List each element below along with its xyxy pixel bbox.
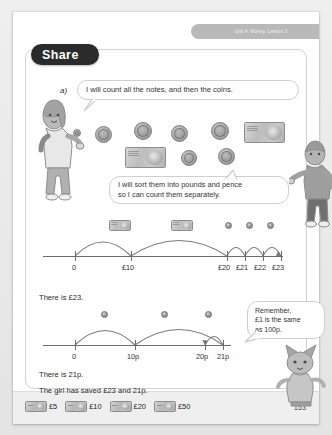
conclusion-sentence: The girl has saved £23 and 21p. <box>39 386 148 395</box>
tick-pence-21 <box>223 340 224 350</box>
banknote-icon-50 <box>154 401 176 412</box>
jump-icon-note-2 <box>171 220 193 231</box>
tick-label-pounds-22: £22 <box>254 263 266 272</box>
tick-pounds-22 <box>263 251 264 261</box>
banknote-icon-20 <box>110 401 132 412</box>
speech-bubble-2-text: I will sort them into pounds and pence s… <box>118 180 242 200</box>
tick-pounds-0 <box>75 251 76 261</box>
coin-6 <box>218 148 235 165</box>
money-key-label-5: £5 <box>49 402 57 411</box>
money-key-label-20: £20 <box>134 402 146 411</box>
number-line-pounds: 0 £10 £20 £21 £22 £23 <box>13 217 319 287</box>
jump-icon-coin-3 <box>267 222 274 229</box>
speech-bubble-3-line3: as 100p. <box>255 326 282 333</box>
share-section-title: Share <box>31 44 99 65</box>
running-head: Unit 4: Money, Lesson 3 <box>191 24 319 39</box>
speech-bubble-count-notes: I will count all the notes, and then the… <box>77 80 299 100</box>
tick-label-pounds-0: 0 <box>72 263 76 272</box>
jump-icon-coin-2 <box>246 222 253 229</box>
tick-pence-10 <box>135 340 136 350</box>
tick-pounds-10 <box>131 251 132 261</box>
jump-arcs-pence-icon <box>73 320 223 346</box>
coin-2 <box>134 122 152 140</box>
money-key-strip: £5 £10 £20 £50 <box>25 401 190 412</box>
boy-character-icon <box>289 140 332 230</box>
tick-label-pounds-20: £20 <box>218 263 230 272</box>
jump-arcs-pounds-icon <box>73 231 283 257</box>
tick-pence-0 <box>75 340 76 350</box>
tick-pounds-21 <box>245 251 246 261</box>
tick-label-pence-20: 20p <box>196 352 208 361</box>
jump-icon-pence-coin-2 <box>161 311 168 318</box>
money-key-item-20: £20 <box>110 401 146 412</box>
screenshot-root: Unit 4: Money, Lesson 3 Share a) <box>0 0 332 435</box>
result-sentence-pounds: There is £23. <box>39 293 83 302</box>
speech-bubble-3-tail-icon <box>245 330 259 344</box>
speech-bubble-2-tail-icon <box>223 170 239 180</box>
textbook-page: Unit 4: Money, Lesson 3 Share a) <box>13 12 319 424</box>
part-label-a: a) <box>60 86 67 95</box>
banknote-1 <box>244 122 285 143</box>
money-key-item-10: £10 <box>65 401 101 412</box>
speech-bubble-2-line2: so I can count them separately. <box>118 190 220 199</box>
tick-pounds-23 <box>281 251 282 261</box>
banknote-2 <box>125 147 166 168</box>
speech-bubble-3-text: Remember, £1 is the same as 100p. <box>255 306 301 334</box>
cat-character-icon <box>271 342 332 408</box>
jump-icon-note-1 <box>109 220 131 231</box>
tick-label-pence-10: 10p <box>127 352 139 361</box>
money-key-item-5: £5 <box>25 401 57 412</box>
speech-bubble-1-tail-icon <box>83 98 97 112</box>
tick-label-pence-0: 0 <box>72 352 76 361</box>
tick-label-pounds-21: £21 <box>236 263 248 272</box>
tick-pence-20 <box>205 340 206 350</box>
jump-icon-pence-coin-3 <box>205 311 212 318</box>
money-key-label-10: £10 <box>89 402 101 411</box>
axis-line-pounds <box>43 256 283 257</box>
coin-1 <box>95 126 112 143</box>
banknote-icon-5 <box>25 401 47 412</box>
speech-bubble-3-line2: £1 is the same <box>255 316 301 323</box>
tick-label-pence-21: 21p <box>217 352 229 361</box>
tick-pounds-20 <box>227 251 228 261</box>
coin-5 <box>181 150 197 166</box>
jump-icon-coin-1 <box>225 222 232 229</box>
money-key-item-50: £50 <box>154 401 190 412</box>
result-sentence-pence: There is 21p. <box>39 370 83 379</box>
speech-bubble-1-text: I will count all the notes, and then the… <box>86 85 233 95</box>
tick-label-pounds-10: £10 <box>122 263 134 272</box>
money-key-label-50: £50 <box>178 402 190 411</box>
girl-character-icon <box>30 98 86 206</box>
banknote-icon-10 <box>65 401 87 412</box>
tick-label-pounds-23: £23 <box>272 263 284 272</box>
coin-3 <box>171 125 188 142</box>
coin-4 <box>211 122 229 140</box>
speech-bubble-3-line1: Remember, <box>255 307 291 314</box>
speech-bubble-2-line1: I will sort them into pounds and pence <box>118 180 242 189</box>
jump-icon-pence-coin-1 <box>101 311 108 318</box>
axis-line-pence <box>43 345 231 346</box>
speech-bubble-sort-money: I will sort them into pounds and pence s… <box>109 176 289 204</box>
